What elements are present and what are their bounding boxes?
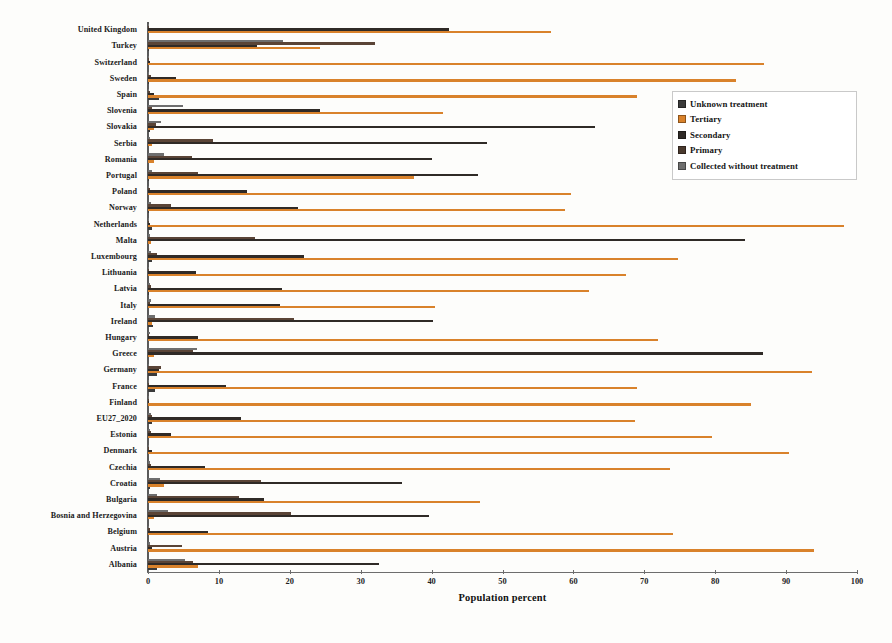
bar [148, 225, 844, 227]
bar [148, 95, 637, 97]
bar-group [148, 71, 857, 87]
bar-group [148, 476, 857, 492]
x-axis-tick-label: 20 [286, 577, 294, 586]
bar-group [148, 362, 857, 378]
x-axis-tick-label: 30 [357, 577, 365, 586]
legend-swatch-icon [678, 146, 686, 154]
x-axis-tick-mark [786, 570, 787, 574]
legend-item[interactable]: Secondary [678, 127, 851, 143]
bar [148, 227, 152, 229]
y-axis-category-label: Finland [0, 398, 137, 407]
bar [148, 484, 164, 486]
bar [148, 468, 670, 470]
bar [148, 501, 480, 503]
y-axis-category-label: Ireland [0, 317, 137, 326]
bar [148, 47, 320, 49]
legend-swatch-icon [678, 100, 686, 108]
bar [148, 241, 151, 243]
y-axis-category-label: Italy [0, 301, 137, 310]
bar [148, 452, 789, 454]
x-axis-tick-mark [503, 570, 504, 574]
y-axis-category-label: Slovenia [0, 106, 137, 115]
x-axis-tick-mark [644, 570, 645, 574]
bar [148, 63, 764, 65]
bar [148, 325, 153, 327]
bar-group [148, 184, 857, 200]
x-axis-title: Population percent [148, 592, 857, 603]
legend-item[interactable]: Collected without treatment [678, 158, 851, 174]
y-axis-category-label: Croatia [0, 479, 137, 488]
bar [148, 49, 149, 51]
y-axis-category-label: Switzerland [0, 58, 137, 67]
bar-group [148, 265, 857, 281]
x-axis-tick-label: 40 [427, 577, 435, 586]
y-axis-category-label: France [0, 382, 137, 391]
y-axis-category-label: Slovakia [0, 122, 137, 131]
x-axis-tick-label: 50 [498, 577, 506, 586]
bar [148, 355, 154, 357]
x-axis-tick-mark [148, 570, 149, 574]
legend-label: Secondary [690, 130, 731, 140]
bar-group [148, 460, 857, 476]
bar-group [148, 38, 857, 54]
bar-group [148, 233, 857, 249]
y-axis-category-label: Hungary [0, 333, 137, 342]
x-axis-tick-mark [361, 570, 362, 574]
bar [148, 422, 152, 424]
bar [148, 373, 157, 375]
bar [148, 98, 159, 100]
y-axis-category-label: Belgium [0, 527, 137, 536]
y-axis-category-label: Denmark [0, 446, 137, 455]
bar-group [148, 249, 857, 265]
bar [148, 482, 402, 484]
bar-group [148, 541, 857, 557]
y-axis-category-label: Greece [0, 349, 137, 358]
bar-group [148, 330, 857, 346]
legend-item[interactable]: Primary [678, 143, 851, 159]
bar [148, 533, 673, 535]
x-axis-tick-label: 70 [640, 577, 648, 586]
legend-swatch-icon [678, 131, 686, 139]
bar-group [148, 508, 857, 524]
legend-item[interactable]: Tertiary [678, 112, 851, 128]
y-axis-category-label: Germany [0, 365, 137, 374]
bar [148, 274, 626, 276]
bar [148, 339, 658, 341]
bar [148, 160, 154, 162]
bar [148, 290, 589, 292]
bar [148, 320, 433, 322]
bar [148, 211, 149, 213]
chart-figure: United KingdomTurkeySwitzerlandSwedenSpa… [0, 0, 892, 643]
bar [148, 179, 149, 181]
bar [148, 239, 745, 241]
bar [148, 144, 152, 146]
bar [148, 387, 637, 389]
y-axis-category-label: Portugal [0, 171, 137, 180]
bar [148, 130, 150, 132]
bar [148, 258, 678, 260]
x-axis-tick-label: 60 [569, 577, 577, 586]
bar [148, 545, 182, 547]
bar-group [148, 492, 857, 508]
y-axis-category-label: Spain [0, 90, 137, 99]
legend-item[interactable]: Unknown treatment [678, 96, 851, 112]
legend-swatch-icon [678, 115, 686, 123]
y-axis-category-label: Netherlands [0, 220, 137, 229]
x-axis-tick-mark [432, 570, 433, 574]
bar [148, 517, 154, 519]
bar [148, 568, 157, 570]
bar [148, 371, 812, 373]
x-axis-tick-label: 0 [146, 577, 150, 586]
y-axis-category-label: Poland [0, 187, 137, 196]
y-axis-category-label: Estonia [0, 430, 137, 439]
y-axis-category-label: Turkey [0, 41, 137, 50]
bar [148, 79, 736, 81]
y-axis-category-label: Luxembourg [0, 252, 137, 261]
y-axis-category-label: United Kingdom [0, 25, 137, 34]
bar [148, 142, 487, 144]
x-axis-tick-label: 10 [215, 577, 223, 586]
x-axis-tick-labels: 0102030405060708090100 [148, 574, 857, 594]
bar [148, 306, 435, 308]
y-axis-category-label: Romania [0, 155, 137, 164]
x-axis-tick-mark [290, 570, 291, 574]
